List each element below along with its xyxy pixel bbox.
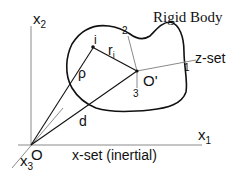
origin-o-label: O [31, 146, 43, 163]
d-label: d [79, 113, 87, 129]
rigid-body-diagram: x2 x1 x3 O x-set (inertial) Rigid Body z… [0, 0, 240, 188]
r-i-label: ri [108, 42, 115, 60]
rho-label: ρ [78, 65, 86, 81]
z-set-label: z-set [195, 50, 225, 66]
origin-o-prime-label: O' [143, 72, 158, 89]
point-i-label: i [94, 33, 97, 47]
inertial-frame-label: x-set (inertial) [72, 147, 157, 163]
x1-label: x1 [198, 126, 212, 146]
r-i-vector [94, 48, 137, 71]
z-axis-2-label: 2 [122, 25, 128, 36]
diagram-svg: x2 x1 x3 O x-set (inertial) Rigid Body z… [0, 0, 240, 188]
point-o-prime [135, 69, 138, 72]
z-axis-1-label: 1 [184, 62, 190, 73]
z-axis-2 [128, 36, 137, 71]
x2-label: x2 [33, 10, 47, 30]
rho-vector [31, 48, 93, 145]
z-axis-3-label: 3 [133, 88, 139, 99]
rigid-body-title: Rigid Body [153, 9, 223, 25]
d-vector [31, 71, 137, 145]
